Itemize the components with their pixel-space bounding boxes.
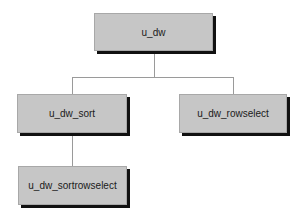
node-label: u_dw_sortrowselect	[28, 180, 116, 191]
connector-u_dw_sort-to-u_dw_sortrowselect	[72, 133, 73, 166]
node-u_dw_sortrowselect[interactable]: u_dw_sortrowselect	[18, 166, 127, 205]
connector-to-u_dw_sort	[72, 77, 73, 94]
connector-branch-horizontal	[72, 77, 234, 78]
node-label: u_dw	[142, 27, 166, 38]
connector-u_dw-down	[154, 51, 155, 78]
connector-to-u_dw_rowselect	[233, 77, 234, 94]
node-u_dw[interactable]: u_dw	[94, 13, 213, 51]
node-u_dw_sort[interactable]: u_dw_sort	[17, 94, 127, 133]
node-label: u_dw_sort	[49, 108, 95, 119]
node-label: u_dw_rowselect	[197, 108, 269, 119]
node-u_dw_rowselect[interactable]: u_dw_rowselect	[179, 94, 287, 133]
